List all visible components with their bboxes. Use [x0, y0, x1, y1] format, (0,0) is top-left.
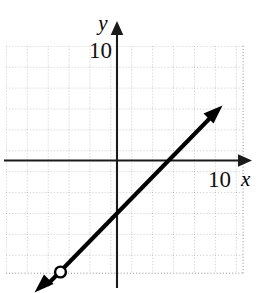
- x-tick-label-10: 10: [208, 167, 231, 192]
- y-tick-label-10: 10: [89, 38, 112, 63]
- graph-figure: y 10 10 x: [0, 0, 259, 293]
- open-circle-endpoint: [55, 267, 66, 278]
- x-axis-label: x: [240, 167, 251, 191]
- y-axis-label: y: [96, 11, 108, 35]
- coordinate-plane-svg: y 10 10 x: [0, 0, 259, 293]
